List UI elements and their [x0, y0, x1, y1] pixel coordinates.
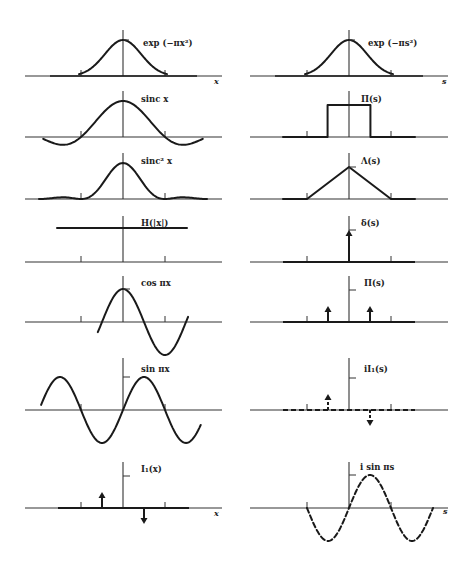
- right-panel-triangle: [250, 153, 448, 199]
- left-panel-odd-impulses: [25, 462, 222, 524]
- fourier-pairs-figure: exp (−πx²) x exp (−πs²) s sinc x Π(s) si…: [0, 0, 475, 567]
- impulse-right-head: [141, 518, 148, 524]
- label-constant: H(|x|): [141, 218, 168, 229]
- label-even-impulse-pair: Π(s): [364, 278, 385, 288]
- label-odd-impulses: I₁(x): [141, 464, 162, 474]
- pair-row-7: I₁(x) x i sin πs s: [25, 462, 448, 541]
- label-gaussian-s: exp (−πs²): [368, 38, 417, 48]
- pair-row-6: sin πx iI₁(s): [25, 358, 448, 443]
- right-panel-gaussian: [250, 30, 448, 76]
- label-sinc: sinc x: [141, 94, 169, 104]
- x-axis-label-bottom: x: [213, 508, 219, 518]
- impulse-left-head: [99, 492, 106, 498]
- impulse-left-head: [325, 394, 332, 400]
- impulse-left-head: [325, 306, 332, 312]
- left-panel-cos: [25, 276, 222, 355]
- label-gaussian-x: exp (−πx²): [143, 38, 193, 48]
- label-sinc2: sinc² x: [141, 156, 173, 166]
- impulse-right-head: [367, 306, 374, 312]
- pair-row-5: cos πx Π(s): [25, 276, 448, 355]
- pair-row-2: sinc x Π(s): [25, 91, 448, 145]
- label-i-sin: i sin πs: [360, 462, 395, 472]
- label-delta: δ(s): [361, 218, 380, 228]
- left-panel-constant: [25, 216, 222, 262]
- left-panel-sin: [25, 358, 222, 443]
- pair-row-3: sinc² x Λ(s): [25, 153, 448, 199]
- pair-row-4: H(|x|) δ(s): [25, 216, 448, 262]
- s-axis-label-bottom: s: [443, 506, 448, 516]
- label-rect: Π(s): [361, 94, 382, 104]
- right-panel-i-sin: [250, 462, 448, 541]
- left-panel-sinc: [25, 91, 222, 145]
- s-axis-label: s: [442, 76, 447, 86]
- label-odd-impulse-pair: iI₁(s): [364, 364, 388, 374]
- x-axis-label: x: [213, 76, 219, 86]
- pair-row-1: exp (−πx²) x exp (−πs²) s: [25, 30, 448, 86]
- label-triangle: Λ(s): [360, 156, 380, 166]
- label-sin: sin πx: [141, 364, 170, 374]
- right-panel-even-impulse-pair: [250, 276, 448, 322]
- left-panel-gaussian: [25, 30, 222, 76]
- right-panel-delta: [250, 216, 448, 262]
- label-cos: cos πx: [141, 278, 172, 288]
- delta-impulse-head: [346, 230, 353, 236]
- right-panel-rect: [250, 91, 448, 137]
- right-panel-odd-impulse-pair: [250, 358, 448, 426]
- left-panel-sinc2: [25, 153, 222, 199]
- impulse-right-head: [367, 420, 374, 426]
